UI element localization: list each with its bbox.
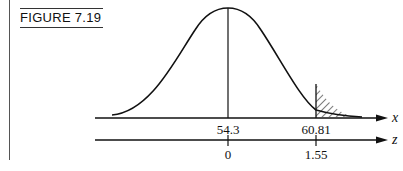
x-axis: x 54.3 60.81 bbox=[95, 110, 399, 137]
z-axis: z 0 1.55 bbox=[95, 132, 398, 162]
x-tick-cut: 60.81 bbox=[301, 122, 330, 137]
x-axis-label: x bbox=[391, 110, 399, 125]
normal-curve-chart: x 54.3 60.81 z 0 1.55 bbox=[0, 0, 403, 171]
x-tick-mean: 54.3 bbox=[217, 122, 240, 137]
z-axis-label: z bbox=[391, 132, 398, 147]
z-tick-cut: 1.55 bbox=[305, 147, 328, 162]
shaded-tail-region bbox=[316, 84, 360, 118]
z-tick-mean: 0 bbox=[225, 147, 232, 162]
